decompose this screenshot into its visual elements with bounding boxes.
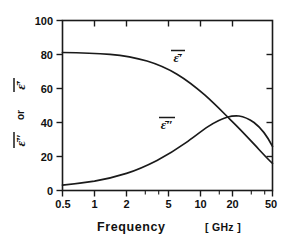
y-tick-label-20: 20 bbox=[41, 151, 53, 163]
y-axis-title-part-double-prime: ε̄″ bbox=[13, 134, 28, 147]
y-tick-label-0: 0 bbox=[47, 185, 53, 197]
annotation-epsilon-double-prime: ε̄″ bbox=[159, 117, 175, 132]
x-tick-label-2: 2 bbox=[123, 198, 129, 210]
x-axis-title: Frequency bbox=[97, 220, 166, 234]
y-tick-label-60: 60 bbox=[41, 83, 53, 95]
permittivity-chart: 0 20 40 60 80 100 bbox=[0, 0, 294, 242]
x-tick-label-50: 50 bbox=[265, 198, 277, 210]
x-tick-label-10: 10 bbox=[194, 198, 206, 210]
y-tick-label-40: 40 bbox=[41, 117, 53, 129]
y-axis-title-eps-double-prime: ε̄″ bbox=[13, 132, 28, 148]
y-axis-title-group: ε̄″ or ε̄′ bbox=[13, 78, 28, 148]
y-tick-label-100: 100 bbox=[35, 15, 53, 27]
annotation-label-epsilon-double-prime: ε̄″ bbox=[161, 117, 174, 132]
x-tick-label-1: 1 bbox=[91, 198, 97, 210]
x-tick-label-5: 5 bbox=[165, 198, 171, 210]
y-axis-title-conjunction: or bbox=[15, 110, 26, 120]
y-axis-title-part-prime: ε̄′ bbox=[13, 80, 28, 90]
figure-container: 0 20 40 60 80 100 bbox=[0, 0, 294, 242]
x-tick-label-0-5: 0.5 bbox=[55, 198, 70, 210]
annotation-label-epsilon-prime: ε̄′ bbox=[174, 50, 183, 65]
x-axis-unit: [ GHz ] bbox=[205, 221, 241, 233]
y-tick-label-80: 80 bbox=[41, 49, 53, 61]
x-tick-label-20: 20 bbox=[226, 198, 238, 210]
